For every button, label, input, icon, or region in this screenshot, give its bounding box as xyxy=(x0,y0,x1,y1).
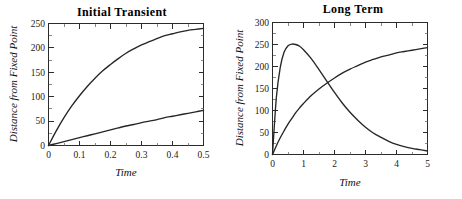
y-tick-label: 250 xyxy=(255,40,270,50)
plot-frame-left xyxy=(49,24,204,146)
y-tick-label: 150 xyxy=(31,68,46,78)
y-tick-marks-right xyxy=(273,23,428,155)
panel-title-left: Initial Transient xyxy=(77,5,167,19)
y-tick-label: 0 xyxy=(264,150,269,160)
x-tick-label: 4 xyxy=(394,159,399,169)
chart-panel-long-term: Long Term xyxy=(231,0,462,199)
y-tick-labels-left: 0 50 100 150 200 250 xyxy=(31,19,46,151)
x-tick-label: 1 xyxy=(301,159,306,169)
x-tick-label: 0.1 xyxy=(74,150,86,160)
x-tick-labels-right: 0 1 2 3 4 5 xyxy=(270,159,430,169)
x-tick-label: 0 xyxy=(46,150,51,160)
x-tick-marks-left xyxy=(49,24,204,146)
figure-container: Initial Transient xyxy=(0,0,462,199)
chart-svg-right: Long Term xyxy=(231,0,462,199)
x-tick-label: 2 xyxy=(332,159,337,169)
y-tick-label: 200 xyxy=(255,62,270,72)
y-tick-label: 200 xyxy=(31,43,46,53)
plot-frame-right xyxy=(273,23,428,155)
curve-saturating-right xyxy=(273,48,428,155)
y-tick-labels-right: 0 50 100 150 200 250 300 xyxy=(255,18,270,160)
y-tick-label: 50 xyxy=(260,128,270,138)
y-tick-label: 0 xyxy=(40,141,45,151)
x-tick-labels-left: 0 0.1 0.2 0.3 0.4 0.5 xyxy=(46,150,210,160)
x-axis-title-left: Time xyxy=(115,166,137,178)
x-axis-title-right: Time xyxy=(339,176,361,188)
y-tick-marks-left xyxy=(49,24,204,146)
y-tick-label: 300 xyxy=(255,18,270,28)
curve-fast-rising-left xyxy=(49,28,204,145)
x-tick-label: 0.4 xyxy=(167,150,179,160)
y-tick-label: 100 xyxy=(31,92,46,102)
x-tick-label: 0.5 xyxy=(198,150,210,160)
y-axis-title-left: Distance from Fixed Point xyxy=(7,25,19,144)
x-tick-marks-right xyxy=(273,23,428,155)
y-tick-label: 100 xyxy=(255,106,270,116)
curve-peak-decay-right xyxy=(273,44,428,155)
x-tick-label: 0.3 xyxy=(136,150,148,160)
curve-slow-rising-left xyxy=(49,110,204,145)
x-tick-label: 3 xyxy=(363,159,368,169)
panel-title-right: Long Term xyxy=(323,2,384,16)
chart-svg-left: Initial Transient xyxy=(0,0,231,199)
y-axis-title-right: Distance from Fixed Point xyxy=(233,29,245,148)
y-tick-label: 250 xyxy=(31,19,46,29)
y-tick-label: 50 xyxy=(36,116,46,126)
x-tick-label: 0.2 xyxy=(105,150,117,160)
y-tick-label: 150 xyxy=(255,84,270,94)
chart-panel-initial-transient: Initial Transient xyxy=(0,0,231,199)
x-tick-label: 0 xyxy=(270,159,275,169)
x-tick-label: 5 xyxy=(425,159,430,169)
